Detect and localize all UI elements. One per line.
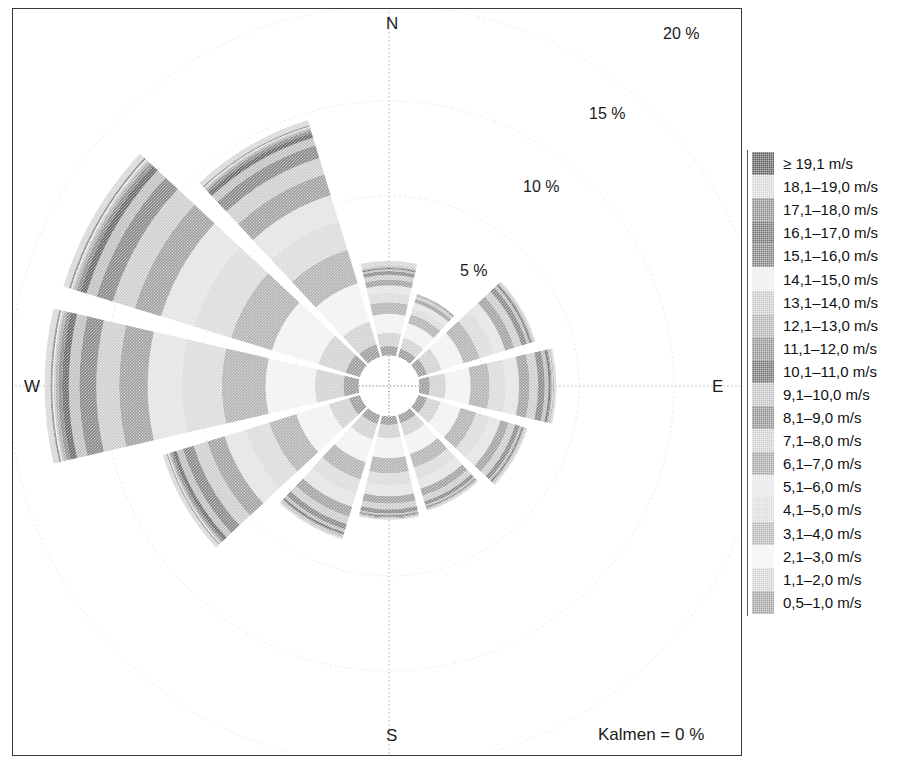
legend-label: 1,1–2,0 m/s bbox=[783, 572, 861, 587]
legend-swatch bbox=[752, 314, 774, 337]
legend-label: 9,1–10,0 m/s bbox=[783, 387, 870, 402]
legend-swatch bbox=[752, 221, 774, 244]
legend-swatch bbox=[752, 291, 774, 314]
legend-label: 14,1–15,0 m/s bbox=[783, 272, 878, 287]
radial-tick-20: 20 % bbox=[663, 25, 699, 43]
legend-row[interactable]: 7,1–8,0 m/s bbox=[752, 429, 878, 452]
legend-row[interactable]: 9,1–10,0 m/s bbox=[752, 383, 878, 406]
legend-swatch bbox=[752, 545, 774, 568]
legend-label: 6,1–7,0 m/s bbox=[783, 456, 861, 471]
legend-swatch bbox=[752, 383, 774, 406]
radial-tick-15: 15 % bbox=[589, 105, 625, 123]
legend-swatch bbox=[752, 175, 774, 198]
band-texture bbox=[182, 339, 226, 432]
legend-row[interactable]: 3,1–4,0 m/s bbox=[752, 522, 878, 545]
band-texture bbox=[373, 437, 405, 458]
legend-swatch bbox=[752, 152, 774, 175]
windrose-plot bbox=[13, 9, 740, 754]
legend-row[interactable]: 0,5–1,0 m/s bbox=[752, 591, 878, 614]
legend-label: 15,1–16,0 m/s bbox=[783, 248, 878, 263]
legend-row[interactable]: 6,1–7,0 m/s bbox=[752, 452, 878, 475]
legend-label: ≥ 19,1 m/s bbox=[783, 156, 853, 171]
legend-swatch bbox=[752, 429, 774, 452]
windrose-figure: ≥ 19,1 m/s18,1–19,0 m/s17,1–18,0 m/s16,1… bbox=[0, 0, 900, 772]
legend-row[interactable]: ≥ 19,1 m/s bbox=[752, 152, 878, 175]
band-texture bbox=[419, 377, 430, 395]
compass-label-n: N bbox=[386, 14, 398, 34]
calm-percentage-label: Kalmen = 0 % bbox=[598, 725, 704, 745]
plot-frame bbox=[12, 8, 742, 756]
legend-row[interactable]: 8,1–9,0 m/s bbox=[752, 406, 878, 429]
legend-label: 7,1–8,0 m/s bbox=[783, 433, 861, 448]
legend-label: 10,1–11,0 m/s bbox=[783, 364, 877, 379]
legend-swatch bbox=[752, 267, 774, 290]
legend-swatch bbox=[752, 406, 774, 429]
band-texture bbox=[429, 373, 446, 399]
legend-row[interactable]: 12,1–13,0 m/s bbox=[752, 314, 878, 337]
legend-divider bbox=[747, 150, 748, 616]
legend-swatch bbox=[752, 568, 774, 591]
legend-label: 17,1–18,0 m/s bbox=[783, 202, 878, 217]
legend-row[interactable]: 17,1–18,0 m/s bbox=[752, 198, 878, 221]
band-texture bbox=[377, 424, 401, 438]
legend-label: 12,1–13,0 m/s bbox=[783, 318, 878, 333]
legend-label: 0,5–1,0 m/s bbox=[783, 595, 861, 610]
legend-swatch bbox=[752, 360, 774, 383]
legend-row[interactable]: 11,1–12,0 m/s bbox=[752, 337, 878, 360]
legend-label: 5,1–6,0 m/s bbox=[783, 479, 861, 494]
legend-label: 11,1–12,0 m/s bbox=[783, 341, 877, 356]
band-texture bbox=[445, 368, 471, 405]
legend-swatch bbox=[752, 498, 774, 521]
legend-label: 4,1–5,0 m/s bbox=[783, 502, 861, 517]
compass-label-w: W bbox=[24, 377, 40, 397]
legend-row[interactable]: 13,1–14,0 m/s bbox=[752, 291, 878, 314]
legend-row[interactable]: 14,1–15,0 m/s bbox=[752, 267, 878, 290]
legend-row[interactable]: 18,1–19,0 m/s bbox=[752, 175, 878, 198]
legend-label: 3,1–4,0 m/s bbox=[783, 526, 861, 541]
legend-label: 2,1–3,0 m/s bbox=[783, 549, 861, 564]
legend-label: 18,1–19,0 m/s bbox=[783, 179, 878, 194]
band-texture bbox=[373, 314, 405, 334]
centre-hole bbox=[359, 356, 420, 417]
legend-label: 13,1–14,0 m/s bbox=[783, 295, 878, 310]
radial-tick-10: 10 % bbox=[523, 178, 559, 196]
legend-swatch bbox=[752, 475, 774, 498]
band-texture bbox=[370, 302, 408, 315]
legend-swatch bbox=[752, 198, 774, 221]
band-texture bbox=[148, 332, 188, 441]
legend-row[interactable]: 5,1–6,0 m/s bbox=[752, 475, 878, 498]
band-texture bbox=[487, 360, 506, 413]
legend-label: 16,1–17,0 m/s bbox=[783, 225, 878, 240]
band-texture bbox=[343, 376, 359, 397]
legend-swatch bbox=[752, 522, 774, 545]
compass-label-s: S bbox=[386, 726, 397, 746]
band-texture bbox=[380, 416, 398, 425]
band-texture bbox=[380, 346, 398, 356]
legend-row[interactable]: 10,1–11,0 m/s bbox=[752, 360, 878, 383]
legend-swatch bbox=[752, 337, 774, 360]
legend-label: 8,1–9,0 m/s bbox=[783, 410, 861, 425]
legend-row[interactable]: 1,1–2,0 m/s bbox=[752, 568, 878, 591]
legend-row[interactable]: 15,1–16,0 m/s bbox=[752, 244, 878, 267]
compass-label-e: E bbox=[712, 377, 723, 397]
legend-swatch bbox=[752, 591, 774, 614]
band-texture bbox=[222, 348, 269, 423]
band-texture bbox=[377, 333, 401, 347]
legend-row[interactable]: 2,1–3,0 m/s bbox=[752, 545, 878, 568]
legend-row[interactable]: 16,1–17,0 m/s bbox=[752, 221, 878, 244]
legend-row[interactable]: 4,1–5,0 m/s bbox=[752, 498, 878, 521]
legend-swatch bbox=[752, 452, 774, 475]
band-texture bbox=[266, 358, 317, 414]
band-texture bbox=[315, 369, 345, 402]
band-texture bbox=[369, 456, 408, 473]
band-texture bbox=[469, 363, 490, 408]
radial-tick-5: 5 % bbox=[460, 262, 488, 280]
speed-class-legend: ≥ 19,1 m/s18,1–19,0 m/s17,1–18,0 m/s16,1… bbox=[752, 152, 878, 614]
legend-swatch bbox=[752, 244, 774, 267]
